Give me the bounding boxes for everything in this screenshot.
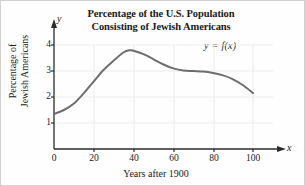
x-axis-title: Years after 1900 [96, 168, 216, 179]
y-axis [51, 19, 57, 149]
x-axis [54, 146, 286, 152]
x-tick-label-40: 40 [125, 153, 143, 163]
x-axis-letter: x [287, 142, 291, 153]
chart-figure: Percentage of the U.S. Population Consis… [0, 0, 305, 186]
y-axis-letter: y [57, 13, 61, 24]
x-tick-label-0: 0 [45, 153, 63, 163]
y-tick-label-1: 1 [39, 117, 51, 127]
x-tick-label-60: 60 [165, 153, 183, 163]
y-tick-label-3: 3 [39, 65, 51, 75]
y-axis-title: Percentage of Jewish Americans [7, 16, 31, 126]
x-tick-label-100: 100 [244, 153, 262, 163]
data-curve [54, 50, 253, 114]
y-axis-title-line-1: Percentage of [7, 16, 19, 126]
y-axis-title-line-2: Jewish Americans [19, 16, 31, 126]
x-tick-label-20: 20 [85, 153, 103, 163]
grid-lines [54, 45, 273, 149]
y-tick-label-4: 4 [39, 39, 51, 49]
y-tick-label-2: 2 [39, 91, 51, 101]
x-tick-label-80: 80 [205, 153, 223, 163]
